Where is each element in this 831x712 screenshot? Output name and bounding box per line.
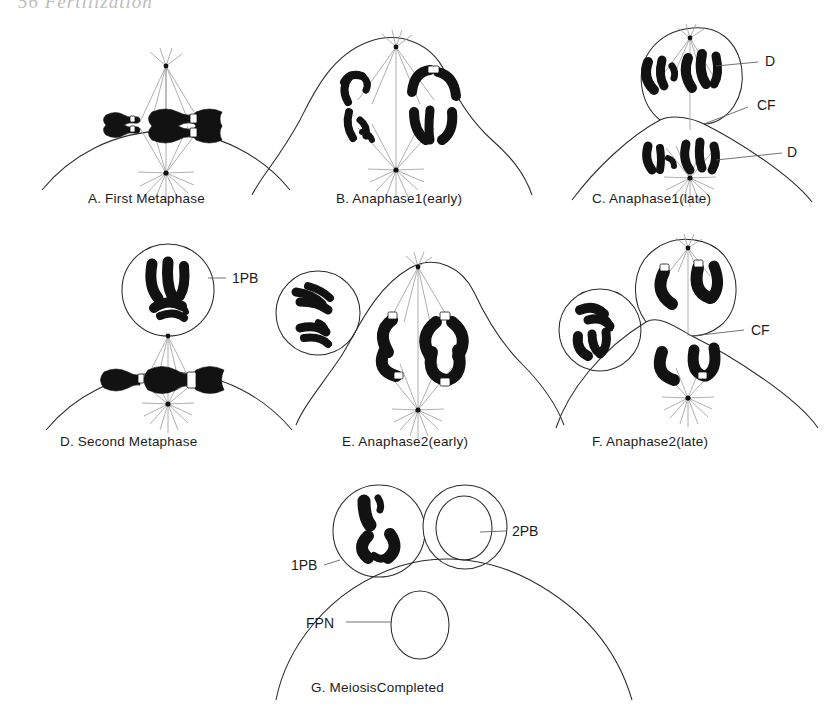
label-d-lower-c: D	[787, 144, 797, 160]
label-d-upper-c: D	[765, 53, 775, 69]
aster-upper-e	[406, 252, 432, 267]
spindle-pole-lower-a	[163, 170, 168, 175]
aster-upper-a	[150, 48, 182, 66]
chromosomes-b	[344, 66, 456, 140]
spindle-pole-upper-c	[688, 36, 693, 41]
spindle-pole-upper-e	[416, 265, 421, 270]
panel-d-second-metaphase: 1PB D. Second Metaphase	[46, 244, 292, 449]
panel-f-caption: F. Anaphase2(late)	[592, 434, 708, 449]
label-cf-f: CF	[751, 322, 770, 338]
panel-b-anaphase1-early: B. Anaphase1(early)	[252, 30, 532, 206]
label-1pb-g: 1PB	[291, 557, 317, 573]
panel-a-caption: A. First Metaphase	[88, 191, 205, 206]
panel-e-anaphase2-early: E. Anaphase2(early)	[276, 252, 564, 449]
cell-membrane-c-body	[572, 117, 812, 202]
spindle-pole-lower-e	[415, 407, 420, 412]
spindle-e	[384, 267, 452, 410]
spindle-pole-upper-f	[686, 246, 691, 251]
chromosomes-e	[382, 312, 463, 386]
meiosis-diagram-svg: A. First Metaphase	[0, 0, 831, 712]
label-1pb-d: 1PB	[232, 270, 258, 286]
female-pronucleus-g	[391, 591, 449, 659]
aster-d	[142, 403, 194, 433]
label-fpn-g: FPN	[306, 615, 334, 631]
chromosomes-c-lower	[647, 142, 716, 170]
leader-d-upper-c	[716, 62, 758, 66]
leader-cf-c	[704, 107, 748, 124]
panel-b-caption: B. Anaphase1(early)	[336, 191, 462, 206]
aster-lower-f	[662, 397, 714, 427]
chromosomes-f-lower	[660, 348, 715, 380]
spindle-pole-upper-a	[164, 64, 169, 69]
spindle-pole-lower-d	[165, 401, 170, 406]
leader-d-lower-c	[716, 153, 782, 160]
spindle-pole-lower-c	[687, 175, 692, 180]
chromosomes-c-upper	[646, 54, 718, 90]
panel-e-caption: E. Anaphase2(early)	[342, 434, 468, 449]
label-cf-c: CF	[757, 97, 776, 113]
spindle-pole-lower-f	[685, 395, 690, 400]
chromosomes-f-upper	[660, 260, 718, 304]
panel-g-caption: G. MeiosisCompleted	[311, 680, 444, 695]
leader-1pb-g	[324, 560, 340, 565]
meiosis-figure: 56 Fertilization	[0, 0, 831, 712]
leader-cf-f	[692, 330, 744, 336]
panel-g-meiosis-completed: 1PB 2PB FPN G. MeiosisCompleted	[276, 485, 632, 700]
chromosomes-d-metaphase-plate	[101, 367, 225, 394]
panel-c-anaphase1-late: D CF D C. Anaphase1(late)	[572, 24, 812, 207]
spindle-pole-lower-b	[393, 167, 398, 172]
spindle-pole-upper-d	[166, 334, 171, 339]
label-2pb-g: 2PB	[512, 523, 538, 539]
spindle-pole-upper-b	[394, 45, 399, 50]
panel-f-anaphase2-late: CF F. Anaphase2(late)	[556, 234, 818, 449]
spindle-b	[358, 47, 434, 170]
aster-upper-b	[382, 30, 412, 47]
panel-d-caption: D. Second Metaphase	[60, 434, 197, 449]
panel-a-first-metaphase: A. First Metaphase	[42, 48, 290, 206]
panel-c-caption: C. Anaphase1(late)	[592, 191, 711, 206]
chromosomes-d-polarbody	[151, 262, 186, 318]
cell-membrane-b	[252, 38, 532, 195]
